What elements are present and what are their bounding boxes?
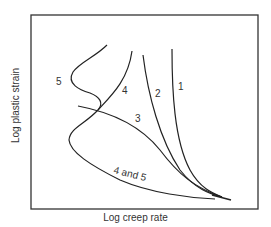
label-curve-4-and-5: 4 and 5: [113, 164, 148, 183]
curve-5: [71, 45, 107, 110]
label-curve-4: 4: [122, 85, 128, 96]
creep-diagram: 1 2 3 4 5 4 and 5: [0, 0, 271, 227]
label-curve-1: 1: [178, 81, 184, 92]
label-curve-5: 5: [56, 76, 62, 87]
curve-2: [143, 55, 222, 197]
label-curve-2: 2: [155, 88, 161, 99]
curve-1: [172, 49, 222, 197]
curve-4-and-5: [69, 140, 215, 199]
label-curve-3: 3: [135, 113, 141, 124]
x-axis-label: Log creep rate: [0, 212, 271, 223]
y-axis-label: Log plastic strain: [10, 51, 21, 161]
